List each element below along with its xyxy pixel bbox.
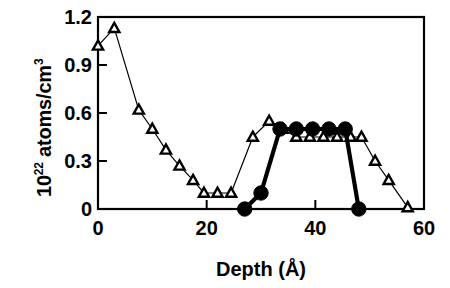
data-point-triangle [403,202,413,211]
data-point-triangle [147,124,157,133]
data-point-triangle [212,188,222,197]
depth-profile-chart: 1022 atoms/cm3 00.30.60.91.2 0204060 Dep… [0,0,450,288]
data-point-triangle [384,175,394,184]
data-point-triangle [370,156,380,165]
data-point-triangle [356,132,366,141]
data-point-circle [352,202,366,216]
axis-frame [98,17,424,209]
data-point-circle [289,122,303,136]
data-point-triangle [134,104,144,113]
open-triangle-series [93,23,413,211]
data-point-circle [238,202,252,216]
filled-circle-series [238,122,366,216]
data-point-circle [254,186,268,200]
axis-ticks [98,17,424,209]
plot-svg [0,0,450,288]
data-point-circle [273,122,287,136]
data-series [93,23,413,216]
data-point-triangle [264,116,274,125]
data-point-circle [338,122,352,136]
data-point-triangle [109,23,119,32]
data-point-circle [322,122,336,136]
plot-area [0,0,450,288]
data-point-circle [305,122,319,136]
data-point-triangle [161,144,171,153]
data-point-triangle [226,188,236,197]
